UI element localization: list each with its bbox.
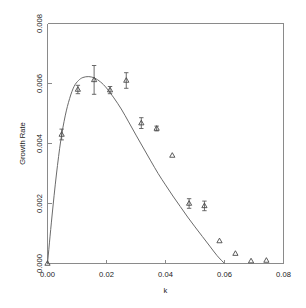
x-tick-label: 0.06 [217, 270, 232, 279]
x-tick-label: 0.02 [99, 270, 114, 279]
y-axis-title: Growth Rate [18, 122, 27, 165]
growth-rate-scatter-plot: 0.000.020.040.060.08 0.0000.0020.0040.00… [0, 0, 306, 308]
data-point-marker [233, 251, 238, 256]
growth-rate-chart-figure: 0.000.020.040.060.08 0.0000.0020.0040.00… [0, 0, 306, 308]
data-point-marker [264, 258, 269, 263]
x-axis-title: k [164, 286, 168, 295]
y-tick-label: 0.008 [35, 14, 44, 33]
error-bars [59, 66, 206, 211]
y-tick-label: 0.002 [35, 194, 44, 213]
fit-curve-path [48, 77, 225, 264]
data-point-marker [217, 238, 222, 243]
data-point-marker [170, 153, 175, 158]
axis-tick-marks [48, 24, 284, 264]
plot-axes [48, 24, 284, 264]
x-tick-label: 0.08 [276, 270, 291, 279]
theoretical-fit-curve [48, 77, 225, 264]
x-axis-tick-labels: 0.000.020.040.060.08 [40, 270, 291, 279]
data-point-marker [248, 258, 253, 263]
y-tick-label: 0.004 [35, 134, 44, 153]
y-tick-label: 0.006 [35, 74, 44, 93]
y-axis-tick-labels: 0.0000.0020.0040.0060.008 [35, 14, 44, 273]
y-tick-label: 0.000 [35, 254, 44, 273]
x-tick-label: 0.04 [158, 270, 173, 279]
